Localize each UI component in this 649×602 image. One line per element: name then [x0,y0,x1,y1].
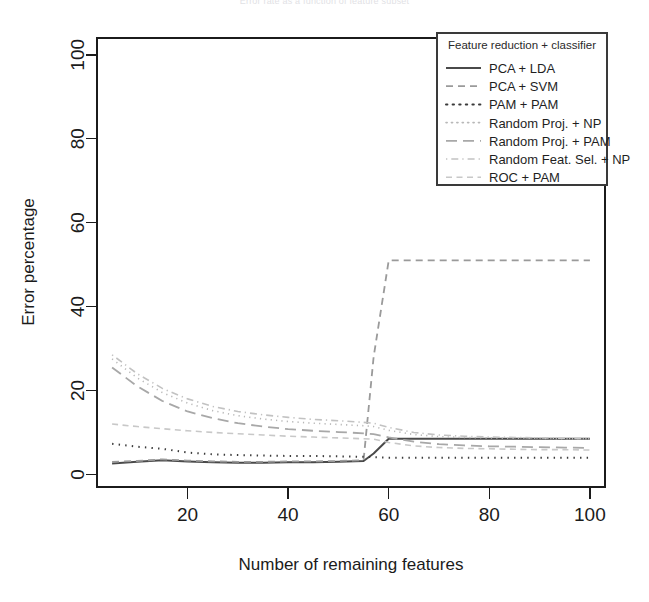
legend-title: Feature reduction + classifier [448,39,596,51]
error-percentage-line-chart: 020406080100 20406080100 Feature reducti… [0,0,649,602]
series-line-0 [112,439,590,464]
series-line-3 [112,359,590,439]
legend-label-0: PCA + LDA [489,61,555,76]
x-axis-title: Number of remaining features [239,555,464,574]
series-line-2 [112,444,590,458]
series-line-4 [112,367,590,448]
series-line-6 [112,424,590,450]
legend-label-1: PCA + SVM [489,79,558,94]
legend: Feature reduction + classifierPCA + LDAP… [437,33,630,185]
y-tick-label-0: 0 [67,469,88,480]
legend-label-5: Random Feat. Sel. + NP [489,152,630,167]
legend-label-3: Random Proj. + NP [489,116,601,131]
legend-label-6: ROC + PAM [489,170,560,185]
series-line-5 [112,355,590,439]
y-tick-label-40: 40 [67,296,88,317]
y-axis: 020406080100 [67,39,97,480]
legend-label-2: PAM + PAM [489,97,558,112]
y-tick-label-80: 80 [67,128,88,149]
x-tick-label-100: 100 [574,504,606,525]
legend-label-4: Random Proj. + PAM [489,134,611,149]
y-tick-label-100: 100 [67,39,88,71]
x-tick-label-60: 60 [378,504,399,525]
series-line-1 [112,260,590,461]
figure-container: Error rate as a function of feature subs… [0,0,649,602]
x-tick-label-40: 40 [278,504,299,525]
x-tick-label-20: 20 [177,504,198,525]
y-axis-title: Error percentage [19,198,38,326]
figure-title-cropped: Error rate as a function of feature subs… [0,0,649,6]
y-tick-label-20: 20 [67,380,88,401]
y-tick-label-60: 60 [67,212,88,233]
x-tick-label-80: 80 [479,504,500,525]
x-axis: 20406080100 [177,487,606,525]
series-lines [112,260,590,463]
